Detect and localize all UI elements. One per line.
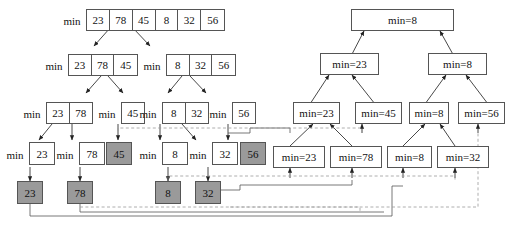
tree-node-root: min=8	[351, 9, 454, 31]
min-label-l0-g0: min	[60, 12, 84, 29]
array-cell: 23	[47, 103, 70, 123]
min-label-l2-g1: min	[95, 105, 119, 122]
array-cell: 45	[114, 55, 137, 75]
array-cell: 78	[110, 10, 133, 30]
array-cell: 8	[156, 10, 179, 30]
array-l1-g1: 8 32 56	[166, 54, 236, 76]
tree-node: min=32	[437, 146, 489, 168]
array-l2-g0: 23 78	[46, 102, 93, 124]
min-label-l3-g3: min	[136, 146, 160, 163]
array-cell: 56	[201, 10, 224, 30]
cross-links-dashed	[80, 128, 478, 211]
leaf-node: 78	[79, 142, 105, 165]
array-l2-g2: 8 32	[162, 102, 209, 124]
leaf-node: 23	[29, 142, 55, 165]
array-cell: 32	[190, 55, 213, 75]
tree-node: min=23	[320, 53, 379, 75]
leaf-node-shaded: 78	[67, 181, 93, 204]
array-cell: 78	[92, 55, 115, 75]
array-l2-g3: 56	[232, 102, 256, 124]
min-label-l1-g0: min	[42, 57, 66, 74]
array-l0-g0: 23 78 45 8 32 56	[86, 9, 225, 31]
tree-node: min=23	[273, 146, 325, 168]
min-label-l1-g1: min	[140, 57, 164, 74]
leaf-node-shaded: 23	[17, 181, 43, 204]
leaf-node: 32	[212, 142, 238, 165]
array-cell: 23	[69, 55, 92, 75]
min-label-l2-g3: min	[206, 105, 230, 122]
min-label-l2-g0: min	[20, 105, 44, 122]
array-cell: 78	[70, 103, 92, 123]
array-cell: 45	[133, 10, 156, 30]
tree-node: min=78	[330, 146, 382, 168]
min-label-l2-g2: min	[136, 105, 160, 122]
array-cell: 32	[178, 10, 201, 30]
tree-node: min=56	[458, 102, 505, 124]
diagram-canvas: min 23 78 45 8 32 56 min 23 78 45 min 8 …	[0, 0, 516, 229]
leaf-node-shaded: 45	[106, 142, 132, 165]
tree-node: min=45	[355, 102, 402, 124]
min-label-l3-g1: min	[53, 146, 77, 163]
array-cell: 8	[167, 55, 190, 75]
leaf-node-shaded: 32	[195, 181, 221, 204]
leaf-node: 8	[162, 142, 188, 165]
array-cell: 56	[233, 103, 255, 123]
tree-node: min=8	[428, 53, 487, 75]
leaf-node-shaded: 56	[240, 142, 266, 165]
leaf-node-shaded: 8	[155, 181, 181, 204]
tree-node: min=23	[293, 102, 340, 124]
array-cell: 23	[87, 10, 110, 30]
array-cell: 8	[163, 103, 186, 123]
array-cell: 56	[212, 55, 235, 75]
min-label-l3-g4: min	[186, 146, 210, 163]
tree-node: min=8	[387, 146, 432, 168]
tree-node: min=8	[409, 102, 449, 124]
array-l1-g0: 23 78 45	[68, 54, 138, 76]
array-cell: 32	[186, 103, 208, 123]
min-label-l3-g0: min	[3, 146, 27, 163]
